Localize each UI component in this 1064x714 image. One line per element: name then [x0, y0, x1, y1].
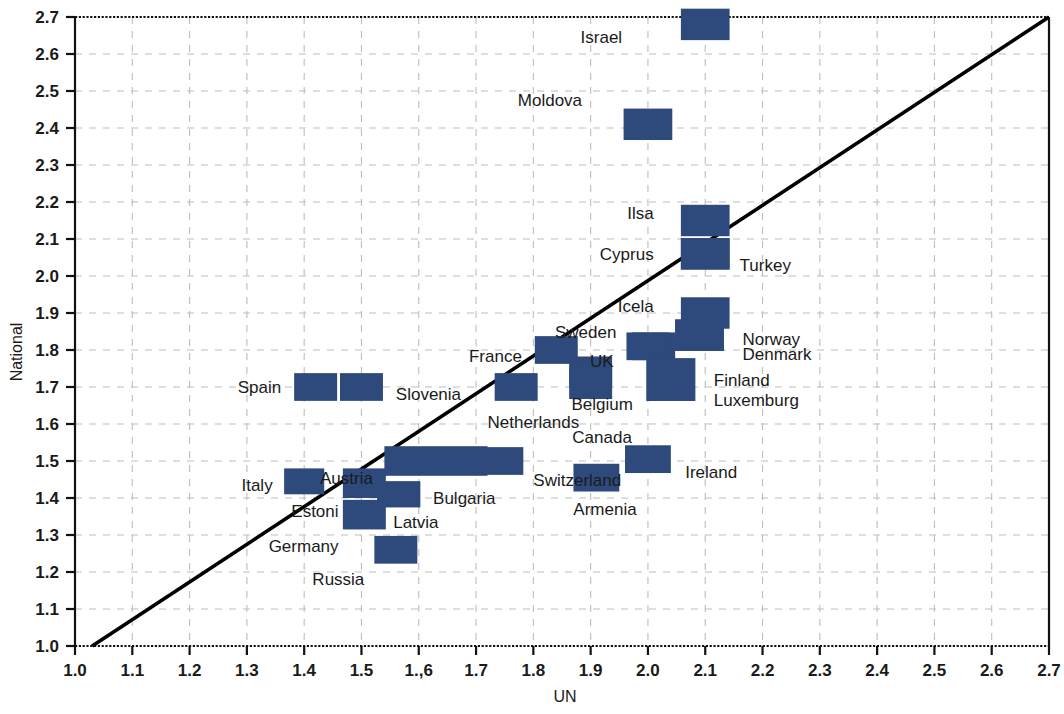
x-axis-tick-label: 1.,6: [405, 661, 433, 680]
data-point-marker: [681, 9, 730, 40]
data-point-marker: [625, 445, 671, 473]
y-axis-tick-label: 2.4: [35, 119, 59, 138]
data-point-label: Luxemburg: [714, 391, 799, 410]
y-axis-tick-label: 2.7: [35, 8, 59, 27]
x-axis-tick-label: 1.3: [235, 661, 259, 680]
data-point-label: Netherlands: [488, 413, 580, 432]
data-point-marker: [626, 332, 669, 360]
data-point-label: Switzerland: [533, 471, 621, 490]
data-point-label: Estoni: [291, 502, 338, 521]
x-axis-tick-label: 2.6: [980, 661, 1004, 680]
data-point-label: Cyprus: [600, 245, 654, 264]
scatter-chart-figure: IsraelMoldovaIlsaCyprusTurkeyIcelaNorway…: [0, 0, 1064, 714]
y-axis-tick-label: 2.1: [35, 230, 59, 249]
x-axis-tick-label: 1.7: [464, 661, 488, 680]
x-axis-tick-label: 1.4: [292, 661, 316, 680]
y-axis-tick-label: 2.0: [35, 267, 59, 286]
y-axis-tick-labels: 1.01.11.21.31.41.51.61.71.81.92.02.12.22…: [35, 8, 59, 656]
y-axis-tick-label: 2.3: [35, 156, 59, 175]
data-point-label: Spain: [238, 378, 281, 397]
x-axis-tick-label: 2.0: [636, 661, 660, 680]
data-point-marker: [675, 319, 724, 350]
y-axis-tick-label: 1.7: [35, 378, 59, 397]
data-point-label: Moldova: [518, 91, 583, 110]
data-point-marker: [624, 109, 673, 140]
data-point-label: Finland: [714, 371, 770, 390]
x-axis-tick-label: 2.4: [865, 661, 889, 680]
y-axis-tick-label: 1.0: [35, 637, 59, 656]
data-point-marker: [384, 446, 487, 476]
data-point-marker: [495, 373, 538, 401]
y-axis-tick-label: 2.2: [35, 193, 59, 212]
x-axis-title: UN: [553, 688, 576, 705]
data-point-marker: [681, 205, 730, 236]
data-point-marker: [647, 358, 696, 401]
x-axis-tick-label: 1.8: [522, 661, 546, 680]
y-axis-tick-label: 1.8: [35, 341, 59, 360]
data-point-label: Sweden: [555, 323, 616, 342]
data-point-label: Latvia: [393, 513, 439, 532]
x-axis-tick-labels: 1.01.11.21.31.41.51.,61.71.81.92.02.12.2…: [63, 661, 1061, 680]
data-point-label: Ireland: [685, 463, 737, 482]
data-point-label: Canada: [572, 428, 632, 447]
data-point-label: Armenia: [573, 500, 637, 519]
data-point-marker: [475, 447, 524, 475]
data-point-marker: [681, 238, 730, 269]
plot-canvas: IsraelMoldovaIlsaCyprusTurkeyIcelaNorway…: [0, 0, 1064, 714]
x-axis-tick-label: 1.5: [350, 661, 374, 680]
x-axis-tick-label: 1.2: [178, 661, 202, 680]
y-axis-tick-label: 2.5: [35, 82, 59, 101]
y-axis-title: National: [8, 323, 25, 382]
x-axis-tick-label: 1.0: [63, 661, 87, 680]
data-point-label: Turkey: [740, 256, 792, 275]
data-point-marker: [374, 536, 417, 564]
x-axis-tick-label: 1.1: [120, 661, 144, 680]
data-point-label: Austria: [320, 469, 373, 488]
data-point-marker: [284, 468, 324, 494]
x-axis-tick-label: 2.1: [693, 661, 717, 680]
data-point-label: Bulgaria: [433, 489, 496, 508]
y-axis-tick-label: 2.6: [35, 45, 59, 64]
data-point-label: Icela: [618, 297, 654, 316]
data-point-label: Slovenia: [396, 385, 462, 404]
data-point-label: Italy: [241, 476, 273, 495]
data-point-marker: [343, 500, 386, 530]
data-point-label: France: [469, 347, 522, 366]
data-point-marker: [294, 373, 337, 401]
y-axis-tick-label: 1.9: [35, 304, 59, 323]
data-point-label: UK: [590, 352, 614, 371]
x-axis-tick-label: 1.9: [579, 661, 603, 680]
data-point-label: Germany: [269, 537, 339, 556]
y-axis-tick-label: 1.4: [35, 489, 59, 508]
y-axis-tick-label: 1.5: [35, 452, 59, 471]
x-axis-tick-label: 2.2: [751, 661, 775, 680]
data-point-label: Israel: [581, 28, 623, 47]
y-axis-tick-label: 1.3: [35, 526, 59, 545]
data-point-label: Belgium: [571, 395, 632, 414]
y-axis-tick-label: 1.6: [35, 415, 59, 434]
data-point-label: Denmark: [742, 345, 811, 364]
y-axis-tick-label: 1.1: [35, 600, 59, 619]
data-point-marker: [340, 373, 383, 401]
x-axis-tick-label: 2.3: [808, 661, 832, 680]
data-point-label: Ilsa: [627, 204, 654, 223]
data-point-label: Russia: [312, 570, 365, 589]
x-axis-tick-label: 2.7: [1037, 661, 1061, 680]
x-axis-tick-label: 2.5: [923, 661, 947, 680]
y-axis-tick-label: 1.2: [35, 563, 59, 582]
